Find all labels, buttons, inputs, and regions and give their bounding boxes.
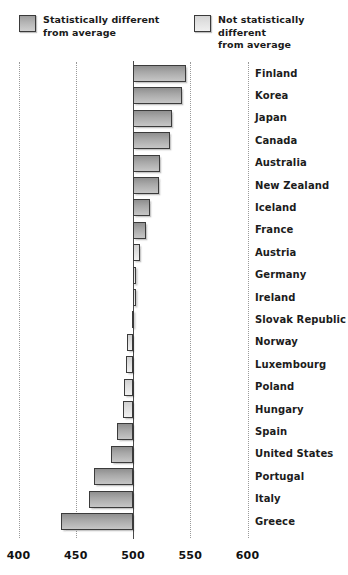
legend-label-not-statistically-different: Not statistically different from average [218,14,348,52]
bar-row: Italy [0,491,348,513]
bar-row: Spain [0,423,348,445]
category-label-slovak-republic: Slovak Republic [255,314,346,325]
bar-ireland [133,289,136,306]
bars-layer: FinlandKoreaJapanCanadaAustraliaNew Zeal… [0,58,348,539]
x-axis: 400450500550600 [0,539,348,575]
category-label-norway: Norway [255,336,298,347]
bar-row: Korea [0,87,348,109]
category-label-iceland: Iceland [255,202,297,213]
bar-germany [133,267,136,284]
bar-row: Ireland [0,289,348,311]
x-tick-label-450: 450 [64,549,87,562]
bar-row: Finland [0,65,348,87]
legend-item-not-statistically-different: Not statistically different from average [194,14,348,52]
bar-row: New Zealand [0,177,348,199]
bar-greece [61,513,133,530]
category-label-united-states: United States [255,448,333,459]
category-label-portugal: Portugal [255,471,304,482]
x-tick-label-600: 600 [236,549,259,562]
bar-japan [133,110,172,127]
category-label-italy: Italy [255,493,281,504]
bar-row: Luxembourg [0,356,348,378]
category-label-spain: Spain [255,426,287,437]
bar-row: United States [0,446,348,468]
bar-hungary [123,401,133,418]
bar-row: Portugal [0,468,348,490]
bar-france [133,222,146,239]
bar-row: Hungary [0,401,348,423]
category-label-austria: Austria [255,247,296,258]
legend-label-statistically-different: Statistically different from average [43,14,159,39]
bar-new-zealand [133,177,159,194]
legend-item-statistically-different: Statistically different from average [19,14,159,39]
bar-row: Germany [0,267,348,289]
bar-row: Slovak Republic [0,311,348,333]
category-label-canada: Canada [255,135,297,146]
bar-row: Australia [0,155,348,177]
chart-plot-area: FinlandKoreaJapanCanadaAustraliaNew Zeal… [0,58,348,575]
legend-swatch-dark-icon [19,15,36,32]
bar-row: Austria [0,244,348,266]
legend-swatch-light-icon [194,15,211,32]
bar-canada [133,132,170,149]
category-label-finland: Finland [255,68,298,79]
bar-australia [133,155,160,172]
x-tick-label-550: 550 [179,549,202,562]
bar-row: France [0,222,348,244]
bar-korea [133,87,182,104]
bar-row: Norway [0,334,348,356]
category-label-australia: Australia [255,157,307,168]
bar-slovak-republic [132,311,134,328]
x-tick-label-400: 400 [7,549,30,562]
category-label-poland: Poland [255,381,294,392]
category-label-greece: Greece [255,516,295,527]
bar-row: Greece [0,513,348,535]
bar-row: Poland [0,379,348,401]
bar-iceland [133,199,150,216]
category-label-germany: Germany [255,269,306,280]
legend: Statistically different from average Not… [0,0,348,58]
category-label-luxembourg: Luxembourg [255,359,326,370]
bar-row: Canada [0,132,348,154]
category-label-hungary: Hungary [255,404,304,415]
bar-austria [133,244,140,261]
category-label-korea: Korea [255,90,288,101]
bar-row: Japan [0,110,348,132]
category-label-japan: Japan [255,112,287,123]
bar-portugal [94,468,133,485]
category-label-new-zealand: New Zealand [255,180,329,191]
bar-italy [89,491,133,508]
x-tick-label-500: 500 [121,549,144,562]
bar-norway [127,334,133,351]
bar-poland [124,379,133,396]
bar-spain [117,423,133,440]
bar-finland [133,65,186,82]
bar-united-states [111,446,133,463]
category-label-france: France [255,224,293,235]
bar-row: Iceland [0,199,348,221]
bar-luxembourg [126,356,133,373]
category-label-ireland: Ireland [255,292,296,303]
